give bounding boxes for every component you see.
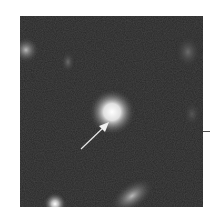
upper-right-source <box>174 34 202 70</box>
central-bright-source <box>88 88 136 136</box>
right-edge-tick <box>203 131 210 132</box>
right-faint-source <box>182 100 202 128</box>
image-canvas <box>20 16 203 207</box>
upper-faint-source <box>60 50 76 74</box>
astronomical-image <box>20 16 203 207</box>
